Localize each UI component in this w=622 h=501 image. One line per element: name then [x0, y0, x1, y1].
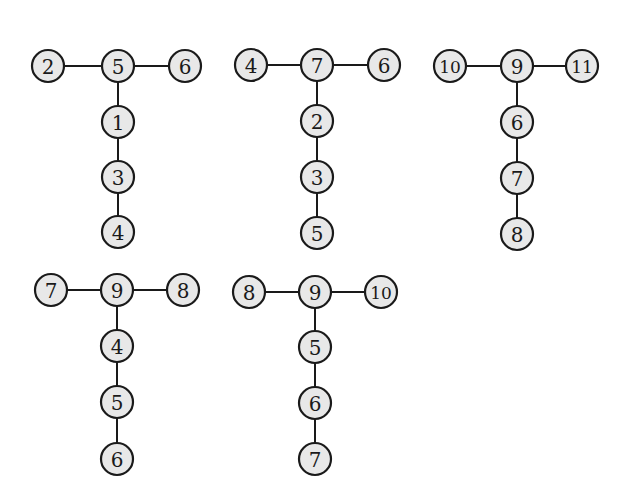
tree-node: 5	[102, 50, 134, 82]
nodes-layer: 256134476235109116787984568910567	[32, 49, 598, 475]
node-label: 6	[111, 448, 124, 472]
node-label: 3	[112, 166, 125, 190]
tree-1: 256134	[32, 50, 201, 248]
tree-3-edges	[450, 66, 582, 234]
tree-node: 7	[299, 443, 331, 475]
tree-node: 5	[301, 217, 333, 249]
tree-node: 2	[32, 50, 64, 82]
tree-node: 9	[501, 50, 533, 82]
tree-node: 6	[101, 443, 133, 475]
tree-node: 6	[501, 106, 533, 138]
tree-node: 11	[566, 50, 598, 82]
tree-node: 5	[101, 386, 133, 418]
node-label: 6	[511, 111, 524, 135]
tree-diagram-canvas: 256134476235109116787984568910567	[0, 0, 622, 501]
node-label: 4	[112, 221, 125, 245]
tree-node: 3	[102, 161, 134, 193]
node-label: 6	[378, 54, 391, 78]
node-label: 7	[511, 167, 524, 191]
tree-node: 6	[169, 50, 201, 82]
tree-node: 10	[434, 50, 466, 82]
node-label: 5	[111, 391, 124, 415]
tree-1-edges	[48, 66, 185, 232]
node-label: 8	[243, 281, 256, 305]
node-label: 10	[439, 57, 461, 77]
tree-node: 4	[102, 216, 134, 248]
node-label: 9	[511, 55, 524, 79]
tree-node: 2	[301, 105, 333, 137]
tree-node: 8	[501, 218, 533, 250]
node-label: 10	[370, 283, 392, 303]
node-label: 2	[42, 55, 55, 79]
node-label: 8	[511, 223, 524, 247]
tree-node: 4	[101, 330, 133, 362]
tree-node: 7	[301, 49, 333, 81]
node-label: 9	[111, 279, 124, 303]
tree-node: 4	[235, 49, 267, 81]
tree-node: 1	[102, 106, 134, 138]
node-label: 5	[311, 222, 324, 246]
tree-node: 3	[301, 161, 333, 193]
node-label: 4	[245, 54, 258, 78]
node-label: 7	[311, 54, 324, 78]
node-label: 1	[112, 111, 125, 135]
tree-node: 6	[368, 49, 400, 81]
node-label: 3	[311, 166, 324, 190]
tree-node: 9	[101, 274, 133, 306]
node-label: 6	[179, 55, 192, 79]
node-label: 9	[309, 281, 322, 305]
tree-node: 5	[299, 331, 331, 363]
node-label: 11	[571, 57, 593, 77]
node-label: 5	[112, 55, 125, 79]
node-label: 6	[309, 392, 322, 416]
tree-5-edges	[249, 292, 381, 459]
tree-node: 10	[365, 276, 397, 308]
tree-2-edges	[251, 65, 384, 233]
tree-node: 9	[299, 276, 331, 308]
tree-node: 6	[299, 387, 331, 419]
node-label: 4	[111, 335, 124, 359]
tree-node: 7	[35, 274, 67, 306]
node-label: 7	[309, 448, 322, 472]
tree-node: 7	[501, 162, 533, 194]
tree-node: 8	[233, 276, 265, 308]
tree-4-edges	[51, 290, 183, 459]
node-label: 8	[177, 279, 190, 303]
node-label: 7	[45, 279, 58, 303]
tree-node: 8	[167, 274, 199, 306]
node-label: 2	[311, 110, 324, 134]
node-label: 5	[309, 336, 322, 360]
